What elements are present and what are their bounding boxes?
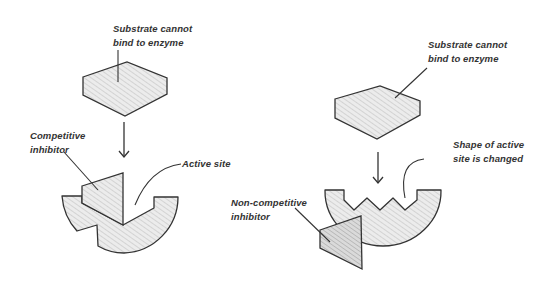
non-competitive-inhibitor-shape [320, 216, 362, 269]
down-arrow-icon [373, 152, 383, 183]
substrate-label-left: Substrate cannot bind to enzyme [113, 22, 192, 50]
substrate-pointer-line [395, 68, 427, 98]
site-change-label: Shape of active site is changed [453, 138, 524, 166]
inhibitor-pointer-line [64, 152, 98, 190]
substrate-label-right: Substrate cannot bind to enzyme [428, 38, 507, 66]
substrate-hexagon [83, 62, 167, 116]
non-competitive-inhibitor-label: Non-competitive inhibitor [231, 196, 307, 224]
down-arrow-icon [119, 122, 129, 157]
active-site-label: Active site [182, 157, 231, 171]
substrate-hexagon [335, 86, 420, 139]
non-competitive-panel [295, 68, 441, 269]
competitive-inhibitor-label: Competitive inhibitor [30, 129, 85, 157]
